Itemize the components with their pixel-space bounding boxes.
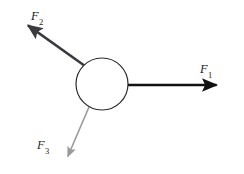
force-diagram-figure: F1 F2 F3: [0, 0, 244, 174]
force-label-f3: F3: [37, 139, 49, 154]
force-label-f2-subscript: 2: [39, 17, 43, 27]
force-label-f3-symbol: F: [37, 138, 45, 152]
force-label-f1-symbol: F: [200, 62, 208, 76]
force-label-f1: F1: [200, 63, 212, 78]
central-body-circle: [76, 58, 128, 110]
force-label-f2-symbol: F: [31, 9, 39, 23]
force-label-f2: F2: [31, 10, 43, 25]
force-label-f1-subscript: 1: [208, 70, 212, 80]
force-label-f3-subscript: 3: [45, 146, 49, 156]
